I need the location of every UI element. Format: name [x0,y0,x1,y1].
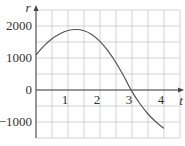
y-tick-label: 0 [26,82,33,97]
x-tick-label: 4 [158,92,165,107]
y-tick-label: 1000 [6,50,32,65]
tick-labels: −10000100020001234rt [0,0,183,129]
y-axis-label: r [25,0,31,15]
x-axis-label: t [179,93,183,108]
x-axis-arrow-icon [178,88,184,93]
line-chart: −10000100020001234rt [0,0,184,146]
x-tick-label: 1 [62,92,69,107]
y-axis-arrow-icon [34,5,39,11]
axes [34,5,185,138]
grid-lines [36,10,180,138]
y-tick-label: −1000 [0,114,32,129]
x-tick-label: 2 [94,92,101,107]
y-tick-label: 2000 [6,18,32,33]
x-tick-label: 3 [126,92,133,107]
